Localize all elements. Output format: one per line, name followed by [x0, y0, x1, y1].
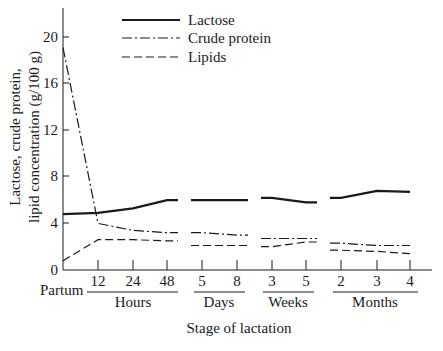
legend: Lactose Crude protein Lipids [122, 12, 271, 65]
series-line-lipids [330, 250, 410, 254]
lactation-line-chart: 0 4 8 12 16 20 12 24 48 5 8 3 5 2 3 4 Pa… [0, 0, 443, 351]
series-line-crude-protein [63, 48, 178, 233]
x-ticks [98, 260, 410, 270]
group-label-days: Days [204, 294, 235, 310]
series-layer [63, 48, 410, 261]
y-tick-label: 20 [43, 29, 58, 45]
series-line-lipids [261, 242, 317, 247]
y-axis-title: Lactose, crude protein, lipid concentrat… [7, 51, 43, 223]
y-axis-title-line2: lipid concentration (g/100 g) [26, 51, 43, 223]
y-tick-label: 0 [51, 262, 59, 278]
x-tick-label: 12 [91, 273, 106, 289]
x-tick-label: 24 [126, 273, 142, 289]
series-line-lactose [261, 198, 317, 203]
x-tick-label: 5 [302, 273, 310, 289]
group-label-months: Months [352, 294, 398, 310]
group-labels: Hours Days Weeks Months [115, 294, 398, 310]
legend-label-lipids: Lipids [188, 49, 226, 65]
series-line-lactose [330, 191, 410, 198]
y-ticks [63, 37, 69, 223]
group-label-weeks: Weeks [268, 294, 308, 310]
y-tick-label: 4 [51, 215, 59, 231]
y-tick-label: 8 [51, 168, 59, 184]
series-line-lactose [63, 200, 178, 214]
x-tick-label: 48 [160, 273, 175, 289]
y-tick-label: 12 [43, 122, 58, 138]
series-line-lipids [63, 240, 178, 261]
x-tick-label: 8 [233, 273, 241, 289]
x-axis-title: Stage of lactation [187, 320, 292, 336]
y-tick-label: 16 [43, 75, 59, 91]
x-tick-label: 3 [373, 273, 381, 289]
series-line-crude-protein [330, 243, 410, 245]
y-axis-title-line1: Lactose, crude protein, [7, 68, 23, 205]
x-tick-label: 2 [337, 273, 345, 289]
partum-label: Partum [40, 282, 84, 298]
legend-label-crude-protein: Crude protein [188, 30, 271, 46]
group-label-hours: Hours [115, 294, 152, 310]
series-line-crude-protein [191, 233, 248, 235]
x-tick-labels: 12 24 48 5 8 3 5 2 3 4 [91, 273, 415, 289]
x-tick-label: 4 [406, 273, 414, 289]
x-tick-label: 5 [198, 273, 206, 289]
legend-label-lactose: Lactose [188, 12, 235, 28]
x-tick-label: 3 [268, 273, 276, 289]
y-tick-labels: 0 4 8 12 16 20 [43, 29, 59, 278]
